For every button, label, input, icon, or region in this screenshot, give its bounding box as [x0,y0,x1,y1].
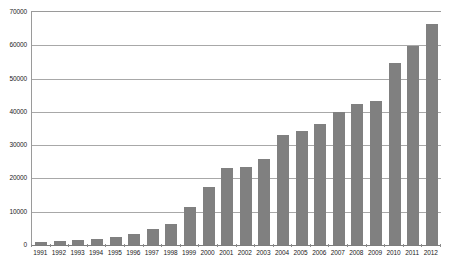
x-axis-tick [161,244,162,247]
plot-area [31,11,441,245]
x-axis-tick [273,244,274,247]
y-axis-tick-label: 40000 [9,107,27,114]
x-axis-tick-label: 1991 [33,249,47,256]
x-axis-tick-label: 2006 [312,249,326,256]
bar [426,24,438,245]
x-axis-tick-label: 2000 [201,249,215,256]
x-axis-tick [105,244,106,247]
y-axis-tick-label: 0 [23,241,27,248]
x-axis-tick-label: 2005 [294,249,308,256]
bar-series [32,12,441,245]
bar-chart: 010000200003000040000500006000070000 199… [0,0,449,264]
bar [165,224,177,245]
x-axis-tick [366,244,367,247]
bar [296,131,308,245]
x-axis-tick [254,244,255,247]
x-axis-tick [328,244,329,247]
x-axis-tick [50,244,51,247]
y-axis-tick-label: 30000 [9,141,27,148]
x-axis-tick [236,244,237,247]
x-axis-tick-label: 2011 [405,249,419,256]
bar [370,101,382,245]
y-axis-tick-label: 10000 [9,207,27,214]
x-axis-tick-label: 2003 [256,249,270,256]
x-axis-tick [403,244,404,247]
y-axis-tick-label: 60000 [9,41,27,48]
x-axis-tick [180,244,181,247]
y-axis-tick-labels: 010000200003000040000500006000070000 [0,0,30,264]
x-axis-tick-label: 2009 [368,249,382,256]
x-axis-tick-labels: 1991199219931994199519961997199819992000… [31,249,440,263]
x-axis-tick-label: 2008 [349,249,363,256]
x-axis-tick-label: 1992 [52,249,66,256]
bar [221,168,233,245]
y-axis-tick-label: 50000 [9,74,27,81]
bar [240,167,252,245]
x-axis-tick [291,244,292,247]
x-axis-tick-label: 2001 [219,249,233,256]
x-axis-tick [124,244,125,247]
x-axis-tick [440,244,441,247]
y-axis-tick-label: 20000 [9,174,27,181]
x-axis-tick-label: 1998 [163,249,177,256]
x-axis-tick-label: 1999 [182,249,196,256]
x-axis-tick-label: 1995 [108,249,122,256]
x-axis-tick [198,244,199,247]
bar [351,104,363,245]
bar [258,159,270,245]
bar [203,187,215,245]
x-axis-tick [310,244,311,247]
x-axis-tick-label: 2012 [424,249,438,256]
x-axis-tick [31,244,32,247]
bar [389,63,401,245]
x-axis-tick [421,244,422,247]
bar [407,46,419,245]
x-axis-tick [87,244,88,247]
x-axis-tick-label: 1997 [145,249,159,256]
x-axis-tick [68,244,69,247]
x-axis-tick-label: 1993 [70,249,84,256]
x-axis-tick-label: 1996 [126,249,140,256]
x-axis-tick [384,244,385,247]
x-axis-tick-label: 2002 [238,249,252,256]
bar [277,135,289,245]
x-axis-tick [143,244,144,247]
x-axis-tick-label: 2010 [386,249,400,256]
bar [147,229,159,245]
y-axis-tick-label: 70000 [9,8,27,15]
bar [314,124,326,245]
x-axis-tick-label: 2007 [331,249,345,256]
x-axis-tick [217,244,218,247]
bar [184,207,196,245]
x-axis-ticks [31,244,440,248]
x-axis-tick-label: 1994 [89,249,103,256]
x-axis-tick [347,244,348,247]
x-axis-tick-label: 2004 [275,249,289,256]
bar [333,112,345,245]
